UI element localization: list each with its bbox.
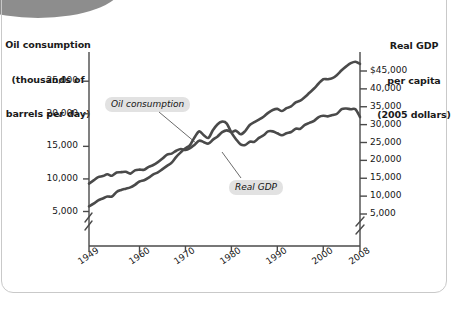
leader-line-gdp	[222, 152, 241, 178]
axis-ticks	[83, 71, 367, 252]
data-line-oil-consumption	[89, 109, 360, 207]
chart-figure: Oil consumption (thousands of barrels pe…	[0, 0, 459, 315]
axis-break-marks	[85, 213, 364, 234]
annotation-leader-lines	[159, 112, 241, 178]
chart-plot-area	[0, 0, 459, 315]
leader-line-oil	[159, 112, 196, 143]
